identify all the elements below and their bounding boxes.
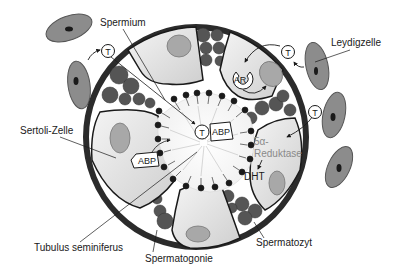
svg-text:Spermatozyt: Spermatozyt [256, 237, 312, 248]
testosterone-right-mid: T [309, 106, 322, 119]
svg-text:Tubulus seminiferus: Tubulus seminiferus [34, 242, 123, 253]
leydig-cell [318, 90, 349, 140]
tubulus-seminiferus [86, 27, 306, 248]
svg-text:T: T [105, 47, 111, 57]
reduktase-label-line1: 5α- [254, 136, 269, 147]
svg-text:T: T [312, 108, 318, 118]
svg-text:Leydigzelle: Leydigzelle [331, 37, 381, 48]
abp-label-center: ABP [212, 127, 230, 137]
reduktase-label-line2: Reduktase [254, 148, 302, 159]
testosterone-symbol: T [199, 128, 205, 138]
svg-text:Sertoli-Zelle: Sertoli-Zelle [20, 125, 74, 136]
dht-label: DHT [244, 171, 265, 182]
ar-label: AR [234, 75, 247, 85]
leydig-cells-left [42, 9, 95, 111]
testosterone-right-top: T [282, 46, 305, 68]
sertoli-cell-right [250, 118, 302, 210]
label-leydigzelle: Leydigzelle [315, 37, 381, 62]
svg-text:T: T [285, 48, 291, 58]
svg-text:Spermium: Spermium [100, 17, 146, 28]
svg-text:Spermatogonie: Spermatogonie [145, 253, 213, 264]
leydig-cell [42, 9, 95, 48]
abp-label-left: ABP [138, 156, 156, 166]
t-abp-complex-center: T ABP [195, 122, 233, 141]
leydig-cell [320, 142, 359, 191]
leydig-cell [301, 40, 332, 92]
tubulus-diagram: T ABP ABP AR 5α- Reduktase DHT T T T [0, 0, 393, 278]
